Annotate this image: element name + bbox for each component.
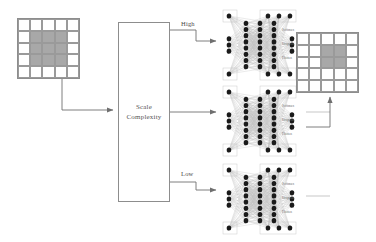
grid-cell-r2-c3 — [55, 43, 67, 55]
network-node-l2-n5 — [258, 52, 263, 57]
layer-label-dropout: Dropout — [282, 196, 294, 200]
network-node-l3-n7 — [272, 64, 277, 69]
network-high-complexity[interactable]: SoftmaxDropoutFlatten — [220, 6, 306, 84]
network-node-l2-n3 — [258, 39, 263, 44]
network-node-l3-n4 — [272, 122, 277, 127]
network-node-l2-n0 — [258, 97, 263, 102]
grid-cell-r1-c0 — [18, 31, 30, 43]
network-output-node-2 — [277, 71, 282, 76]
network-node-l3-n3 — [272, 193, 277, 198]
network-node-l2-n4 — [258, 46, 263, 51]
grid-cell-r0-c3 — [55, 19, 67, 31]
network-node-l1-n5 — [244, 128, 249, 133]
network-node-l3-n5 — [272, 206, 277, 211]
output-feature-map — [296, 32, 359, 93]
network-node-l1-n4 — [244, 46, 249, 51]
grid-cell-r1-c1 — [309, 45, 321, 57]
network-node-l2-n7 — [258, 218, 263, 223]
network-input-node-3 — [288, 89, 293, 94]
network-node-l1-n6 — [244, 58, 249, 63]
network-node-l2-n7 — [258, 140, 263, 145]
grid-cell-r0-c4 — [346, 33, 358, 45]
network-node-l3-n6 — [272, 212, 277, 217]
network-input-node-3 — [288, 167, 293, 172]
connector-input-to-scale — [62, 79, 113, 110]
network-node-l2-n2 — [258, 33, 263, 38]
grid-cell-r0-c1 — [309, 33, 321, 45]
network-output-node-2 — [277, 225, 282, 230]
network-node-l3-n4 — [272, 46, 277, 51]
connector-scale-to-high — [170, 30, 216, 41]
network-node-l2-n6 — [258, 134, 263, 139]
grid-cell-r1-c3 — [55, 31, 67, 43]
connector-scale-to-low — [170, 182, 216, 190]
network-node-l2-n1 — [258, 27, 263, 32]
network-input-node-1 — [266, 13, 271, 18]
network-node-l2-n2 — [258, 187, 263, 192]
network-node-l0-n0 — [227, 36, 232, 41]
grid-cell-r2-c4 — [67, 43, 79, 55]
scale-complexity-line2: Complexity — [126, 112, 161, 122]
grid-cell-r4-c2 — [321, 80, 333, 92]
network-node-l0-n2 — [227, 49, 232, 54]
network-node-l1-n4 — [244, 200, 249, 205]
network-node-l3-n3 — [272, 39, 277, 44]
network-node-l3-n1 — [272, 27, 277, 32]
layer-label-flatten: Flatten — [282, 132, 292, 136]
grid-cell-r3-c1 — [309, 68, 321, 80]
network-input-node-0 — [227, 13, 232, 18]
network-node-l2-n0 — [258, 175, 263, 180]
grid-cell-r0-c2 — [42, 19, 54, 31]
network-node-l2-n5 — [258, 206, 263, 211]
network-medium-complexity[interactable]: SoftmaxDropoutFlatten — [220, 82, 306, 160]
network-output-node-0 — [227, 225, 232, 230]
network-output-node-1 — [266, 71, 271, 76]
grid-cell-r4-c0 — [297, 80, 309, 92]
network-node-l3-n7 — [272, 218, 277, 223]
network-node-l4-n2 — [290, 125, 295, 130]
network-node-l1-n3 — [244, 115, 249, 120]
grid-cell-r1-c1 — [30, 31, 42, 43]
grid-cell-r4-c3 — [334, 80, 346, 92]
network-node-l1-n6 — [244, 212, 249, 217]
network-input-node-1 — [266, 89, 271, 94]
grid-cell-r3-c3 — [334, 68, 346, 80]
network-node-l3-n1 — [272, 181, 277, 186]
network-node-l3-n2 — [272, 109, 277, 114]
network-node-l3-n0 — [272, 97, 277, 102]
network-node-l2-n2 — [258, 109, 263, 114]
network-node-l3-n5 — [272, 52, 277, 57]
network-output-node-1 — [266, 225, 271, 230]
network-node-l1-n1 — [244, 27, 249, 32]
grid-cell-r1-c2 — [321, 45, 333, 57]
layer-label-softmax: Softmax — [282, 182, 294, 186]
network-node-l1-n2 — [244, 33, 249, 38]
network-node-l1-n1 — [244, 103, 249, 108]
branch-label-high: High — [181, 20, 195, 27]
network-node-l0-n1 — [227, 42, 232, 47]
network-node-l3-n0 — [272, 21, 277, 26]
network-node-l1-n7 — [244, 140, 249, 145]
grid-cell-r4-c2 — [42, 66, 54, 78]
network-node-l2-n0 — [258, 21, 263, 26]
network-node-l1-n2 — [244, 187, 249, 192]
network-output-node-2 — [277, 147, 282, 152]
network-node-l0-n1 — [227, 196, 232, 201]
grid-cell-r0-c4 — [67, 19, 79, 31]
network-node-l2-n6 — [258, 58, 263, 63]
grid-cell-r2-c3 — [334, 57, 346, 69]
grid-cell-r1-c4 — [346, 45, 358, 57]
network-node-l1-n7 — [244, 218, 249, 223]
network-node-l1-n4 — [244, 122, 249, 127]
network-input-node-2 — [277, 167, 282, 172]
network-input-node-0 — [227, 167, 232, 172]
network-input-node-2 — [277, 13, 282, 18]
network-node-l3-n2 — [272, 33, 277, 38]
scale-complexity-box[interactable]: Scale Complexity — [118, 22, 170, 202]
network-output-node-0 — [227, 147, 232, 152]
network-node-l3-n6 — [272, 134, 277, 139]
network-node-l0-n2 — [227, 203, 232, 208]
grid-cell-r1-c4 — [67, 31, 79, 43]
grid-cell-r3-c0 — [18, 54, 30, 66]
network-low-complexity[interactable]: SoftmaxDropoutFlatten — [220, 160, 306, 238]
